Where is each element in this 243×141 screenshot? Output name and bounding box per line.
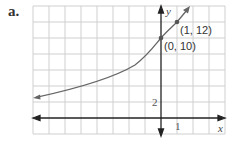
curve-arrow-left xyxy=(33,95,41,100)
x-tick-label: 1 xyxy=(175,120,181,132)
graph: (1, 12) (0, 10) y x 2 1 xyxy=(0,0,243,141)
curve-arrow-right xyxy=(183,6,190,14)
point-label-1-12: (1, 12) xyxy=(180,24,212,36)
point-1-12 xyxy=(175,20,180,25)
x-axis-label: x xyxy=(217,122,223,134)
y-axis-label: y xyxy=(165,5,171,17)
point-label-0-10: (0, 10) xyxy=(164,40,196,52)
y-tick-label: 2 xyxy=(152,96,158,108)
point-0-10 xyxy=(159,36,164,41)
